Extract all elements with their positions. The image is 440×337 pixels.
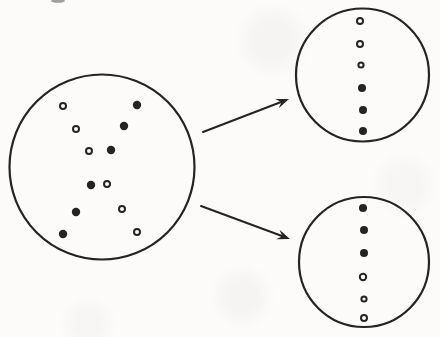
arrow-to-bottom-cell-shaft	[201, 206, 283, 236]
daughter-cell-bottom-dot-filled	[360, 226, 368, 234]
diagram-svg	[0, 0, 440, 337]
daughter-cell-top-dot-filled	[359, 106, 367, 114]
daughter-cell-bottom-membrane	[299, 197, 429, 327]
daughter-cell-bottom-dot-open	[361, 296, 366, 301]
parent-cell-dot-open	[104, 181, 110, 187]
daughter-cell-top-dot-open	[357, 41, 363, 47]
daughter-cell-top-membrane	[296, 9, 429, 142]
daughter-cell-top-dot-filled	[359, 127, 367, 135]
daughter-cell-bottom-dot-open	[360, 274, 366, 280]
parent-cell-dot-filled	[133, 101, 141, 109]
parent-cell-dot-filled	[107, 146, 115, 154]
scan-smudge	[51, 0, 65, 3]
figure-cell-division-diagram	[0, 0, 440, 337]
parent-cell-dot-open	[86, 148, 92, 154]
parent-cell-dot-filled	[59, 230, 67, 238]
parent-cell-dot-open	[60, 103, 66, 109]
daughter-cell-bottom-dot-filled	[360, 249, 368, 257]
parent-cell-dot-filled	[87, 181, 95, 189]
parent-cell-dot-filled	[72, 208, 80, 216]
parent-cell-membrane	[10, 75, 195, 260]
daughter-cell-bottom-dot-open	[361, 315, 367, 321]
arrow-to-top-cell-shaft	[203, 102, 282, 132]
daughter-cell-top-dot-open	[358, 62, 363, 67]
parent-cell-dot-filled	[120, 122, 128, 130]
daughter-cell-top-dot-open	[357, 18, 363, 24]
parent-cell-dot-open	[119, 206, 125, 212]
daughter-cell-top-dot-filled	[358, 84, 366, 92]
parent-cell-dot-open	[73, 126, 79, 132]
daughter-cell-bottom-dot-filled	[359, 204, 367, 212]
parent-cell-dot-open	[134, 229, 140, 235]
